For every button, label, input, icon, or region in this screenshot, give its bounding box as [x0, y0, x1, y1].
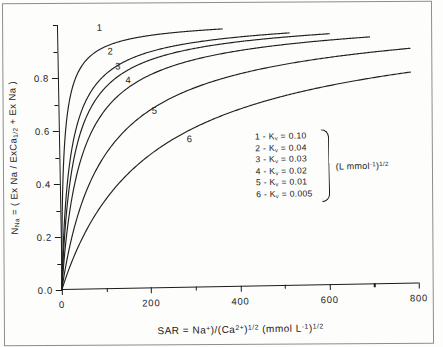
legend-item-label: 4 - K: [256, 166, 276, 176]
scanned-page: 0.00.20.40.60.8 0200400600800 123456 NNa…: [0, 0, 443, 347]
units-half: 1/2: [379, 160, 389, 167]
units-open: (L mmol: [335, 161, 369, 172]
curve-label-1: 1: [97, 21, 102, 32]
curve-group: [57, 18, 419, 289]
legend-item-3: 3 - Kv = 0.03: [255, 154, 312, 167]
y-tick-label: 0.4: [36, 179, 51, 190]
curve-6: [58, 72, 414, 290]
x-title-ca-sup: 2+: [235, 324, 244, 331]
x-title-units-open: (mmol L: [259, 323, 302, 335]
curve-label-3: 3: [115, 60, 120, 71]
legend-item-label: 1 - K: [255, 131, 275, 141]
y-title-n: N: [9, 227, 20, 234]
y-tick-label: 0.8: [34, 73, 49, 84]
y-axis-title: NNa = ( Ex Na / ExCa1/2 + Ex Na ): [6, 81, 20, 235]
legend-item-1: 1 - Kv = 0.10: [255, 130, 312, 143]
x-tick-major: [419, 282, 420, 288]
y-title-ca-sub: 1/2: [12, 127, 19, 137]
x-tick-label: 200: [142, 297, 160, 308]
legend-item-value: = 0.01: [279, 177, 308, 188]
y-tick-label: 0.2: [37, 232, 52, 243]
curve-1: [57, 29, 227, 290]
legend-item-value: = 0.10: [278, 130, 307, 141]
legend-brace: [321, 129, 330, 202]
x-title-lead: SAR = Na: [157, 324, 206, 336]
legend-item-value: = 0.005: [279, 188, 313, 199]
legend: 1 - Kv = 0.102 - Kv = 0.043 - Kv = 0.034…: [255, 130, 313, 201]
legend-item-4: 4 - Kv = 0.02: [256, 165, 313, 178]
x-title-half2: 1/2: [313, 322, 324, 329]
curve-label-2: 2: [107, 45, 112, 56]
legend-rows: 1 - Kv = 0.102 - Kv = 0.043 - Kv = 0.034…: [255, 130, 313, 201]
legend-item-value: = 0.03: [278, 154, 307, 165]
x-title-mid: )/(Ca: [211, 324, 236, 335]
curve-label-6: 6: [187, 133, 192, 144]
y-title-eq: = ( Ex Na / ExCa: [7, 138, 19, 219]
curve-label-5: 5: [152, 105, 157, 116]
legend-item-2: 2 - Kv = 0.04: [255, 142, 312, 155]
legend-item-label: 3 - K: [255, 154, 275, 164]
x-tick-label: 400: [231, 296, 249, 307]
legend-item-5: 5 - Kv = 0.01: [256, 177, 313, 190]
legend-item-label: 5 - K: [256, 177, 276, 187]
y-tick-label: 0.6: [35, 126, 50, 137]
plot-area: 0.00.20.40.60.8 0200400600800 123456 NNa…: [57, 18, 419, 289]
x-tick-label: 0: [59, 299, 65, 310]
y-tick-label: 0.0: [38, 285, 53, 296]
legend-item-label: 2 - K: [255, 143, 275, 153]
curve-label-4: 4: [125, 75, 130, 86]
figure: 0.00.20.40.60.8 0200400600800 123456 NNa…: [0, 0, 443, 347]
y-title-tail: + Ex Na ): [6, 81, 18, 128]
x-tick-label: 600: [321, 294, 339, 305]
legend-item-value: = 0.04: [278, 142, 307, 153]
y-title-n-sub: Na: [13, 218, 20, 227]
legend-units: (L mmol-1)1/2: [335, 158, 388, 173]
legend-item-value: = 0.02: [278, 165, 307, 176]
legend-item-6: 6 - Kv = 0.005: [256, 188, 313, 201]
x-tick-label: 800: [410, 292, 428, 303]
x-title-half1: 1/2: [248, 323, 259, 330]
x-axis-title: SAR = Na+)/(Ca2+)1/2 (mmol L-1)1/2: [157, 322, 323, 336]
legend-item-label: 6 - K: [256, 189, 276, 199]
